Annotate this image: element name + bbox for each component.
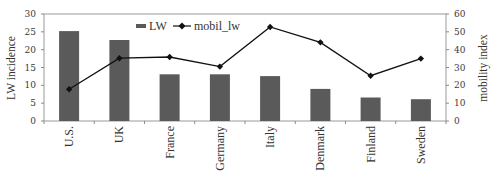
category-label: Germany — [213, 126, 227, 171]
right-tick-label: 30 — [454, 63, 466, 73]
left-tick-label: 10 — [25, 80, 37, 90]
right-tick-label: 40 — [454, 45, 466, 55]
lw-bar — [361, 98, 381, 122]
lw-bar — [310, 89, 330, 121]
right-tick-label: 0 — [454, 116, 460, 126]
legend-mobil-label: mobil_lw — [194, 19, 240, 33]
lw-bar — [260, 76, 280, 121]
left-tick-label: 25 — [25, 27, 37, 37]
left-tick-label: 0 — [30, 116, 36, 126]
category-label: France — [163, 126, 177, 159]
diamond-marker-icon — [179, 23, 186, 30]
lw-bar — [109, 40, 129, 121]
diamond-marker-icon — [166, 54, 172, 60]
x-axis: U.S.UKFranceGermanyItalyDenmarkFinlandSw… — [44, 121, 446, 171]
lw-bar — [411, 99, 431, 121]
right-tick-label: 10 — [454, 98, 466, 108]
left-tick-label: 5 — [30, 98, 36, 108]
left-axis-title: LW incidence — [5, 36, 17, 100]
right-y-axis: 0102030405060 — [446, 9, 466, 126]
right-tick-label: 20 — [454, 80, 466, 90]
legend-lw-swatch — [136, 24, 146, 28]
right-tick-label: 60 — [454, 9, 466, 19]
category-label: Italy — [263, 126, 277, 148]
category-label: UK — [112, 126, 126, 144]
legend: LW mobil_lw — [136, 19, 240, 33]
left-tick-label: 15 — [25, 63, 37, 73]
left-tick-label: 20 — [25, 45, 37, 55]
category-label: U.S. — [62, 126, 76, 147]
lw-bar — [160, 74, 180, 121]
lw-bar — [59, 31, 79, 121]
lw-bar — [210, 74, 230, 121]
diamond-marker-icon — [418, 55, 424, 61]
left-tick-label: 30 — [25, 9, 37, 19]
lw-bar-series — [59, 31, 431, 121]
left-y-axis: 051015202530 — [25, 9, 44, 126]
category-label: Finland — [364, 126, 378, 163]
category-label: Denmark — [313, 126, 327, 171]
right-axis-title: mobility index — [477, 34, 490, 102]
combo-chart: 051015202530 0102030405060 U.S.UKFranceG… — [0, 0, 496, 181]
category-label: Sweden — [414, 126, 428, 164]
legend-lw-label: LW — [149, 19, 167, 33]
right-tick-label: 50 — [454, 27, 466, 37]
